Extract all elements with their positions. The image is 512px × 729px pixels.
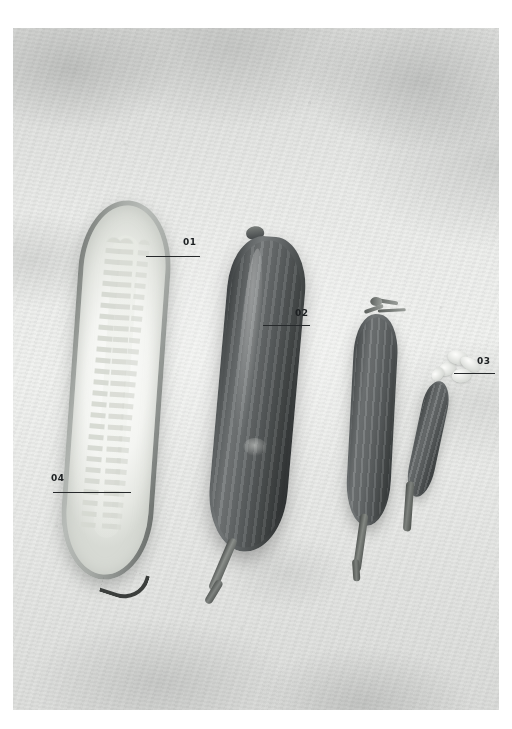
callout-label-04: 04 xyxy=(51,474,65,483)
callout-label-01: 01 xyxy=(183,238,197,247)
leader-line-04 xyxy=(53,492,131,493)
annotated-photo-plate: 01 02 03 04 xyxy=(13,28,499,710)
flower-petal xyxy=(451,368,471,383)
flower-remnant-petal xyxy=(378,308,406,312)
leader-line-01 xyxy=(146,256,200,257)
callout-label-02: 02 xyxy=(295,309,309,318)
leader-line-03 xyxy=(454,373,495,374)
leader-line-02 xyxy=(263,325,310,326)
callout-label-03: 03 xyxy=(477,357,491,366)
cucumber-seed-rows xyxy=(81,237,152,536)
